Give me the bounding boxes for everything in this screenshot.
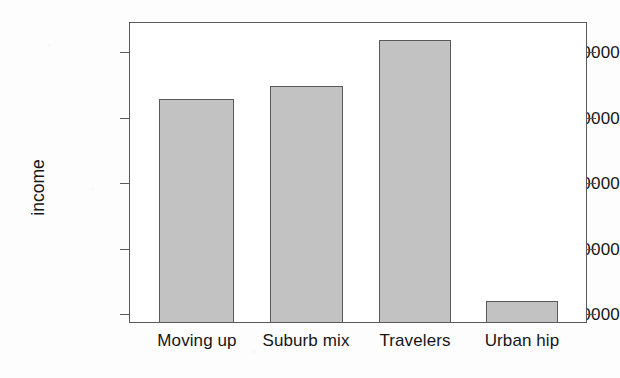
- bar-moving-up[interactable]: [159, 99, 234, 323]
- x-tick-label-moving-up: Moving up: [136, 331, 258, 351]
- bar-travelers[interactable]: [379, 40, 451, 323]
- x-tick-label-suburb-mix: Suburb mix: [245, 331, 367, 351]
- y-tick-mark-right-20000: [587, 314, 596, 315]
- y-axis-title: income: [18, 148, 58, 226]
- y-tick-mark-50000: [120, 118, 129, 119]
- y-tick-mark-40000: [120, 183, 129, 184]
- y-tick-mark-30000: [120, 249, 129, 250]
- bar-suburb-mix[interactable]: [270, 86, 343, 323]
- x-tick-label-urban-hip: Urban hip: [461, 331, 583, 351]
- bar-chart-figure: income 60000 50000 40000 30000 20000 Mov…: [0, 0, 620, 378]
- y-tick-mark-20000: [120, 314, 129, 315]
- y-tick-mark-right-50000: [587, 118, 596, 119]
- y-tick-mark-right-30000: [587, 249, 596, 250]
- y-axis-title-label: income: [28, 159, 49, 215]
- bar-urban-hip[interactable]: [486, 301, 558, 323]
- y-tick-mark-60000: [120, 52, 129, 53]
- y-tick-mark-right-40000: [587, 183, 596, 184]
- y-tick-mark-right-60000: [587, 52, 596, 53]
- x-tick-label-travelers: Travelers: [354, 331, 476, 351]
